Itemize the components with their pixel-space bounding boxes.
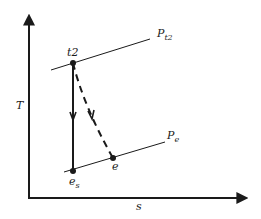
point-t2: t2 bbox=[67, 46, 78, 66]
isobar-line bbox=[51, 39, 150, 70]
point-e: e bbox=[110, 155, 119, 173]
y-axis-label: T bbox=[16, 99, 25, 112]
point-es: es bbox=[69, 168, 80, 190]
isobar-label: Pt2 bbox=[156, 27, 173, 42]
isobar-label: Pe bbox=[166, 129, 179, 144]
axes: T s bbox=[16, 16, 246, 213]
isobar-pe: Pe bbox=[64, 129, 179, 172]
ts-diagram: T s Pt2 Pe t2 bbox=[0, 0, 261, 219]
point-label: es bbox=[69, 175, 80, 190]
point-label: e bbox=[112, 160, 119, 173]
process-isentropic bbox=[70, 63, 76, 171]
point-label: t2 bbox=[67, 46, 78, 59]
x-axis-label: s bbox=[136, 200, 142, 213]
process-actual bbox=[73, 63, 113, 158]
